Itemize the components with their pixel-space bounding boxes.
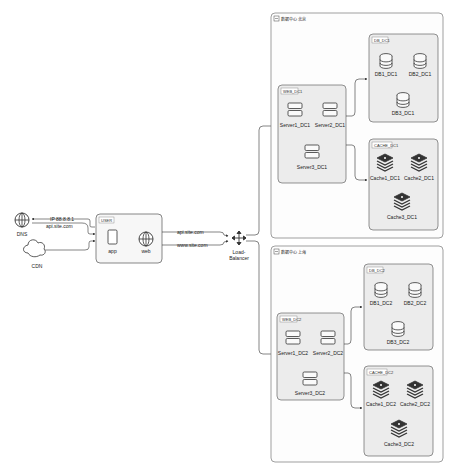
db-group-label: DB_DC1: [374, 38, 391, 43]
cdn-label: CDN: [32, 263, 43, 269]
cache-label: Cache3_DC2: [384, 441, 414, 447]
dns-node[interactable]: DNS: [15, 213, 29, 237]
globe-icon: [15, 213, 29, 227]
user-group-label: USER: [101, 218, 112, 223]
db-group-dc1[interactable]: DB_DC1 DB1_DC1 DB2_DC1 DB3_DC1: [369, 34, 438, 122]
dns-label: DNS: [17, 231, 28, 237]
cache-group-dc2[interactable]: CACHE_DC2 Cache1_DC2 Cache2_DC2 Cache3_D…: [364, 366, 433, 456]
cache-group-label: CACHE_DC1: [374, 143, 399, 148]
globe-icon: [139, 232, 153, 246]
database-icon: [375, 283, 387, 298]
server-label: Server2_DC1: [315, 122, 346, 128]
db-label: DB2_DC1: [409, 71, 432, 77]
db-label: DB2_DC2: [404, 300, 427, 306]
db-group-label: DB_DC2: [369, 268, 386, 273]
datacenter-1[interactable]: 数据中心 北京 DB_DC1 DB1_DC1 DB2_DC1 DB3_DC1 W…: [271, 13, 443, 238]
datacenter-2[interactable]: 数据中心 上海 DB_DC2 DB1_DC2 DB2_DC2 DB3_DC2 W…: [271, 246, 443, 462]
web-group-label: WEB_DC1: [283, 89, 303, 94]
web-group-label: WEB_DC2: [282, 317, 302, 322]
db-label: DB3_DC2: [387, 339, 410, 345]
mobile-icon: [108, 230, 117, 244]
architecture-diagram: DNS CDN USER app web IP 88.8.8.1 api.sit…: [0, 0, 450, 469]
web-label: web: [141, 248, 150, 254]
cloud-icon: [24, 240, 46, 257]
edge-label-api-lb: api.site.com: [177, 229, 204, 235]
lb-label-2: Balancer: [229, 255, 249, 261]
edge-label-www-lb: www.site.com: [177, 242, 208, 248]
database-icon: [414, 54, 426, 69]
server-label: Server3_DC2: [295, 390, 326, 396]
cache-label: Cache1_DC1: [370, 175, 400, 181]
db-group-dc2[interactable]: DB_DC2 DB1_DC2 DB2_DC2 DB3_DC2: [364, 264, 433, 350]
datacenter-1-title: 数据中心 北京: [281, 16, 306, 22]
database-icon: [392, 322, 404, 337]
cache-label: Cache2_DC2: [400, 401, 430, 407]
cache-group-dc1[interactable]: CACHE_DC1 Cache1_DC1 Cache2_DC1 Cache3_D…: [369, 139, 438, 230]
database-icon: [380, 54, 392, 69]
server-label: Server2_DC2: [313, 350, 344, 356]
server-label: Server1_DC2: [278, 350, 309, 356]
web-group-dc2[interactable]: WEB_DC2 Server1_DC2 Server2_DC2 Server3_…: [277, 313, 344, 400]
cache-label: Cache3_DC1: [387, 214, 417, 220]
cache-group-label: CACHE_DC2: [369, 370, 394, 375]
edge-label-api: api.site.com: [46, 223, 73, 229]
server-label: Server1_DC1: [280, 122, 311, 128]
app-node[interactable]: app: [108, 230, 117, 254]
cache-label: Cache1_DC2: [366, 401, 396, 407]
edge-label-ip: IP 88.8.8.1: [50, 216, 74, 222]
load-balancer-node[interactable]: Load- Balancer: [229, 231, 249, 261]
db-label: DB1_DC2: [370, 300, 393, 306]
cdn-node[interactable]: CDN: [24, 240, 46, 269]
datacenter-2-title: 数据中心 上海: [281, 249, 306, 255]
web-group-dc1[interactable]: WEB_DC1 Server1_DC1 Server2_DC1 Server3_…: [278, 85, 346, 183]
database-icon: [397, 93, 409, 108]
user-group[interactable]: USER app web: [96, 214, 162, 263]
server-label: Server3_DC1: [297, 164, 328, 170]
four-way-arrow-icon: [232, 231, 246, 245]
db-label: DB3_DC1: [392, 110, 415, 116]
db-label: DB1_DC1: [375, 71, 398, 77]
cache-label: Cache2_DC1: [404, 175, 434, 181]
app-label: app: [108, 248, 117, 254]
database-icon: [409, 283, 421, 298]
